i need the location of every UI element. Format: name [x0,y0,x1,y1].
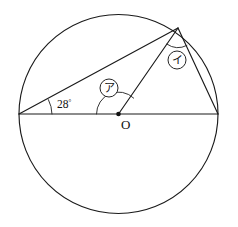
geometry-canvas: 28° O ア イ [0,0,238,227]
angle-arc-28-degrees [48,100,52,114]
angle-arc-central-a [97,92,134,114]
inscribed-angle-value: 28 [57,98,69,110]
radius-center-to-apex [119,28,179,114]
chord-apex-to-right [178,28,218,114]
chord-left-to-apex [19,28,178,114]
vertex-angle-marker-label: イ [172,54,183,67]
center-point-label: O [121,117,130,132]
geometry-figure: 28° O ア イ [0,0,238,227]
center-point-dot [116,112,121,117]
degree-symbol: ° [69,98,72,106]
central-angle-marker-label: ア [104,82,115,95]
inscribed-angle-label: 28° [57,98,72,110]
angle-arc-apex-i [167,44,187,47]
